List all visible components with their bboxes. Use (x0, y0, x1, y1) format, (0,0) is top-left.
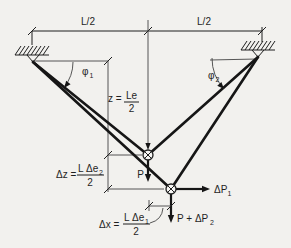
z-arrowhead-icon (145, 143, 150, 150)
dP1-label: ΔP (214, 184, 228, 195)
top-dimension: L/2 L/2 (28, 16, 266, 45)
phi2-subscript: 2 (216, 76, 220, 83)
dx-numerator-subscript: 1 (145, 218, 149, 225)
dx-numerator: L Δe (124, 212, 145, 223)
arrowhead-icon (145, 174, 151, 182)
load-P-label: P (137, 169, 144, 180)
phi1-subscript: 1 (90, 72, 94, 79)
arrowhead-icon (168, 215, 174, 223)
hatching-icon (241, 41, 275, 50)
dx-equation-lhs: Δx = (99, 219, 119, 230)
z-denominator: 2 (129, 103, 135, 114)
dP1-subscript: 1 (228, 190, 232, 197)
P-plus-dP2-label: P + ΔP (177, 213, 209, 224)
phi2-label: φ (208, 70, 215, 81)
dz-numerator: L Δe (78, 163, 99, 174)
force-dP1 (176, 186, 210, 192)
phi1-label: φ (82, 66, 89, 77)
z-numerator: Le (126, 90, 138, 101)
hatching-icon (15, 46, 49, 55)
dz-equation-lhs: Δz = (56, 169, 76, 180)
dx-denominator: 2 (133, 226, 139, 237)
span-left-label: L/2 (81, 16, 95, 27)
z-equation-lhs: z = (108, 93, 122, 104)
span-right-label: L/2 (197, 16, 211, 27)
P-plus-dP2-subscript: 2 (210, 219, 214, 226)
arrowhead-icon (202, 186, 210, 192)
cable-system-diagram: L/2 L/2 (0, 0, 291, 248)
dz-numerator-subscript: 2 (99, 169, 103, 176)
center-reference-line (145, 20, 150, 150)
left-support (15, 46, 49, 62)
dz-denominator: 2 (87, 177, 93, 188)
leader-line (150, 208, 163, 223)
right-angle-reference-line (210, 59, 257, 60)
node-original (143, 150, 153, 160)
node-displaced (166, 184, 176, 194)
right-support (241, 41, 275, 57)
